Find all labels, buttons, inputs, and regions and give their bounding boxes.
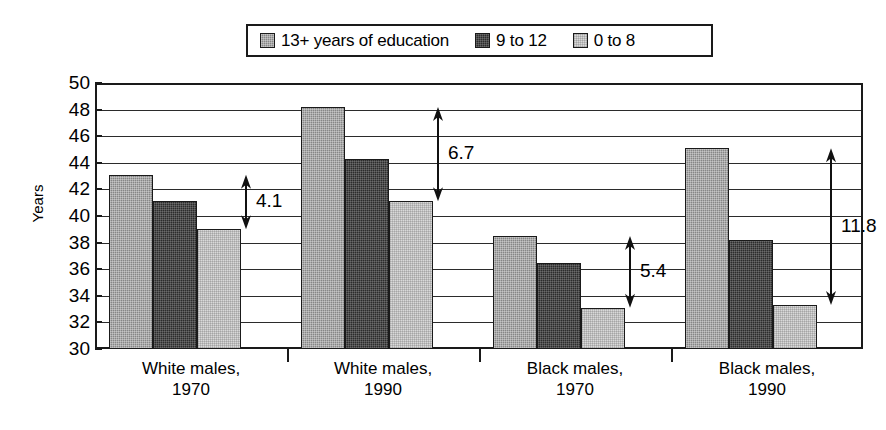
category-label-line: Black males,: [479, 358, 671, 379]
bar: [685, 148, 729, 349]
legend-item-0: 13+ years of education: [260, 32, 449, 49]
bar: [345, 159, 389, 349]
bar-chart: 13+ years of education 9 to 12 0 to 8 Ye…: [0, 0, 886, 430]
category-label-line: White males,: [95, 358, 287, 379]
category-label-line: 1970: [95, 379, 287, 400]
y-tick-mark: [95, 268, 102, 270]
x-axis-category-label: Black males,1990: [671, 358, 863, 400]
legend-swatch-icon-1: [475, 33, 490, 48]
x-axis-category-label: White males,1970: [95, 358, 287, 400]
y-axis-tick-labels: 5048464442403836343230: [40, 83, 90, 349]
bar: [729, 240, 773, 349]
bar: [581, 308, 625, 349]
category-label-line: 1990: [287, 379, 479, 400]
y-tick-mark: [95, 109, 102, 111]
category-label-line: White males,: [287, 358, 479, 379]
bar: [773, 305, 817, 349]
bars-layer: [95, 83, 863, 349]
y-tick-label: 34: [50, 286, 90, 305]
y-tick-mark: [95, 135, 102, 137]
y-tick-label: 30: [50, 339, 90, 358]
bar: [197, 229, 241, 349]
y-tick-mark: [95, 215, 102, 217]
y-tick-label: 32: [50, 312, 90, 331]
y-tick-mark: [95, 242, 102, 244]
legend-item-2: 0 to 8: [573, 32, 635, 49]
legend-label-1: 9 to 12: [496, 32, 547, 49]
bar: [153, 201, 197, 349]
annotation-value-label: 6.7: [448, 143, 474, 162]
y-tick-mark: [95, 295, 102, 297]
y-tick-mark: [95, 82, 102, 84]
y-tick-label: 44: [50, 153, 90, 172]
annotation-value-label: 4.1: [256, 191, 282, 210]
legend-swatch-icon-2: [573, 33, 588, 48]
y-tick-mark: [95, 162, 102, 164]
y-tick-mark: [95, 348, 102, 350]
y-tick-label: 42: [50, 179, 90, 198]
y-tick-label: 48: [50, 100, 90, 119]
bar: [493, 236, 537, 349]
annotation-value-label: 11.8: [841, 216, 877, 235]
legend-item-1: 9 to 12: [475, 32, 547, 49]
y-tick-label: 40: [50, 206, 90, 225]
y-tick-label: 46: [50, 126, 90, 145]
legend-label-0: 13+ years of education: [281, 32, 449, 49]
chart-legend: 13+ years of education 9 to 12 0 to 8: [246, 24, 713, 57]
bar: [109, 175, 153, 349]
annotation-value-label: 5.4: [640, 261, 666, 280]
y-tick-label: 38: [50, 233, 90, 252]
bar: [537, 263, 581, 349]
y-tick-mark: [95, 188, 102, 190]
legend-label-2: 0 to 8: [594, 32, 635, 49]
bar: [389, 201, 433, 349]
bar: [301, 107, 345, 349]
y-tick-label: 50: [50, 73, 90, 92]
legend-swatch-icon-0: [260, 33, 275, 48]
x-axis-category-label: Black males,1970: [479, 358, 671, 400]
category-label-line: 1990: [671, 379, 863, 400]
y-tick-label: 36: [50, 259, 90, 278]
category-label-line: 1970: [479, 379, 671, 400]
x-axis-category-label: White males,1990: [287, 358, 479, 400]
category-label-line: Black males,: [671, 358, 863, 379]
y-tick-mark: [95, 321, 102, 323]
